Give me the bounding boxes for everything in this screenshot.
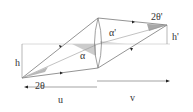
label-h-prime: h' bbox=[172, 31, 179, 42]
arrow-icon bbox=[132, 21, 135, 24]
label-alpha: α bbox=[80, 50, 86, 61]
label-2theta-prime: 2θ' bbox=[151, 11, 163, 22]
label-v: v bbox=[130, 92, 135, 103]
label-alpha-prime: α' bbox=[109, 27, 116, 38]
label-u: u bbox=[58, 94, 63, 105]
arrow-icon bbox=[130, 48, 133, 51]
lens-diagram: h h' 2θ 2θ' α α' u v bbox=[0, 0, 193, 112]
label-2theta: 2θ bbox=[35, 80, 45, 91]
u-arrowhead-icon bbox=[24, 86, 28, 89]
label-h: h bbox=[15, 57, 20, 68]
v-arrowhead-icon bbox=[166, 80, 170, 83]
arrow-icon bbox=[60, 72, 63, 75]
